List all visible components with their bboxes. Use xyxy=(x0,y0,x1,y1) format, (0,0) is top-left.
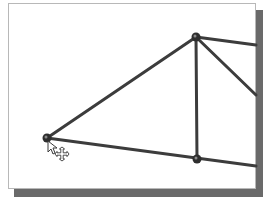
bottom-node-highlight xyxy=(195,157,198,160)
top-node-highlight xyxy=(194,35,197,38)
member-vertical[interactable] xyxy=(196,37,197,159)
graphics-viewport[interactable] xyxy=(0,0,274,209)
truss-drawing-canvas[interactable] xyxy=(0,0,274,209)
left-node-highlight xyxy=(45,136,48,139)
frame-shadow-right xyxy=(256,10,263,197)
frame-shadow-bottom xyxy=(14,189,263,197)
